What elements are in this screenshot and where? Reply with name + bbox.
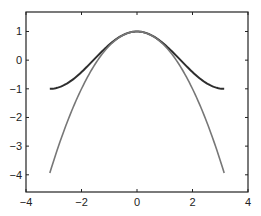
y-tick-label: −2 <box>9 111 22 123</box>
plot-frame <box>26 12 248 192</box>
chart: −4−2024 10−1−2−3−4 <box>0 0 261 216</box>
x-tick-label: −4 <box>20 196 33 208</box>
x-tick-label: 2 <box>189 196 195 208</box>
x-tick-label: 0 <box>134 196 140 208</box>
y-tick-label: −4 <box>9 169 22 181</box>
y-tick-label: −3 <box>9 140 22 152</box>
series-line-cos <box>50 31 224 88</box>
x-tick-label: −2 <box>75 196 88 208</box>
y-tick-label: −1 <box>9 83 22 95</box>
y-axis-tick-labels: 10−1−2−3−4 <box>9 25 22 180</box>
y-tick-label: 0 <box>16 54 22 66</box>
series-line-taylor <box>50 31 224 172</box>
x-axis-tick-labels: −4−2024 <box>20 196 251 208</box>
plot-lines <box>50 31 224 172</box>
x-tick-label: 4 <box>245 196 251 208</box>
y-tick-label: 1 <box>16 25 22 37</box>
axis-ticks <box>26 12 248 192</box>
